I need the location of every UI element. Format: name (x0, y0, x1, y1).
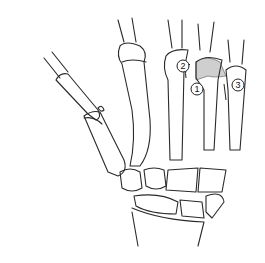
thumb-bones (44, 52, 125, 176)
hand-skeleton-illustration: 2 1 3 (0, 0, 265, 263)
callout-2-label: 2 (180, 61, 185, 71)
callout-2: 2 (177, 60, 189, 72)
carpal-bones (120, 168, 226, 218)
little-finger-bones (226, 40, 246, 150)
index-finger-bones (118, 18, 150, 166)
callout-1: 1 (191, 83, 203, 95)
callout-1-label: 1 (194, 84, 199, 94)
callout-3: 3 (232, 79, 244, 91)
callout-3-label: 3 (235, 80, 240, 90)
middle-finger-bones (164, 20, 188, 160)
